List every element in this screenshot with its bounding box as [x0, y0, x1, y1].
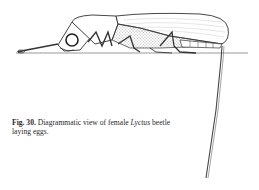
eye	[66, 34, 78, 46]
caption-text: Diagrammatic view of female	[36, 118, 131, 127]
ovipositor	[206, 46, 222, 178]
species-name: Lyctus	[131, 118, 151, 127]
figure-label: Fig. 30.	[12, 118, 36, 127]
lyctus-beetle-illustration	[0, 0, 259, 190]
figure: Fig. 30. Diagrammatic view of female Lyc…	[0, 0, 259, 190]
figure-caption: Fig. 30. Diagrammatic view of female Lyc…	[12, 118, 172, 136]
